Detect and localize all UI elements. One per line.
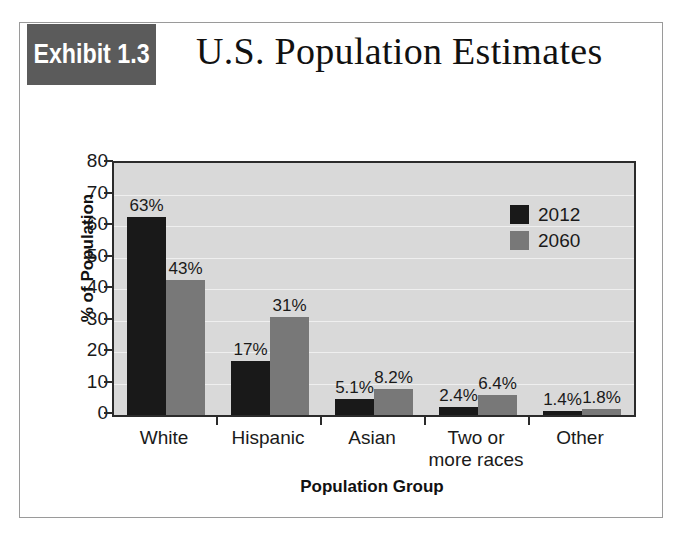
bar-2060-hispanic xyxy=(270,317,309,415)
bar-2060-two-or-more-races xyxy=(478,395,517,415)
legend-label: 2060 xyxy=(538,231,580,250)
legend-label: 2012 xyxy=(538,205,580,224)
bar-2060-other xyxy=(582,409,621,415)
bar-group xyxy=(439,163,517,415)
bar-2012-other xyxy=(543,411,582,415)
y-tick-label: 0 xyxy=(68,403,108,422)
bar-2012-white xyxy=(127,217,166,415)
x-tick-mark xyxy=(528,415,530,425)
plot-area: 63%43%17%31%5.1%8.2%2.4%6.4%1.4%1.8% 201… xyxy=(112,161,636,417)
bar-group xyxy=(127,163,205,415)
bar-2060-asian xyxy=(374,389,413,415)
bar-chart: % of Population 80706050403020100 63%43%… xyxy=(20,133,664,519)
exhibit-number-badge: Exhibit 1.3 xyxy=(27,24,156,85)
bar-2012-two-or-more-races xyxy=(439,407,478,415)
legend-item-2012: 2012 xyxy=(510,201,620,227)
x-axis-title: Population Group xyxy=(112,477,632,497)
bar-2060-white xyxy=(166,280,205,415)
bar-group xyxy=(335,163,413,415)
bar-group xyxy=(231,163,309,415)
x-tick-mark xyxy=(424,415,426,425)
bar-2012-asian xyxy=(335,399,374,415)
exhibit-header: Exhibit 1.3 U.S. Population Estimates xyxy=(20,23,664,133)
x-tick-mark xyxy=(216,415,218,425)
legend-swatch-2012 xyxy=(510,205,529,224)
y-tick-label: 70 xyxy=(68,183,108,202)
y-tick-label: 60 xyxy=(68,214,108,233)
exhibit-title: U.S. Population Estimates xyxy=(196,29,656,73)
x-tick-mark xyxy=(320,415,322,425)
y-tick-label: 50 xyxy=(68,246,108,265)
chart-legend: 20122060 xyxy=(510,201,620,253)
y-tick-label: 40 xyxy=(68,277,108,296)
x-category-label: Other xyxy=(510,427,650,449)
bar-2012-hispanic xyxy=(231,361,270,415)
legend-item-2060: 2060 xyxy=(510,227,620,253)
legend-swatch-2060 xyxy=(510,231,529,250)
exhibit-figure-frame: Exhibit 1.3 U.S. Population Estimates % … xyxy=(19,22,663,518)
y-tick-label: 30 xyxy=(68,309,108,328)
y-tick-label: 20 xyxy=(68,340,108,359)
y-tick-label: 80 xyxy=(68,151,108,170)
y-tick-label: 10 xyxy=(68,372,108,391)
